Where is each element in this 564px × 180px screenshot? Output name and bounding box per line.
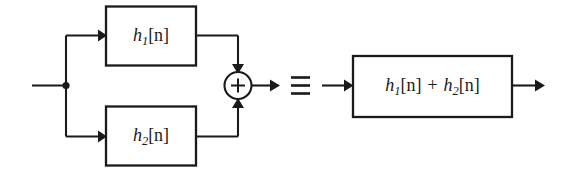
right-combined-system: h1[n]+h2[n]: [322, 56, 545, 117]
diagram-canvas: h1[n] h2[n]: [0, 0, 564, 180]
block-h1[interactable]: h1[n]: [106, 7, 196, 66]
left-parallel-system: h1[n] h2[n]: [32, 7, 280, 166]
block-h2-label-arg: [n]: [148, 125, 169, 145]
equivalence-symbol: [291, 78, 310, 94]
block-diagram-figure: h1[n] h2[n]: [0, 0, 564, 180]
combined-term2-arg: [n]: [459, 75, 480, 95]
left-system-output-arrowhead: [270, 80, 280, 92]
combined-block-output-arrowhead: [535, 80, 545, 92]
block-h1-label-h: h: [133, 25, 142, 45]
summing-junction[interactable]: [225, 72, 252, 99]
block-h2-label-h: h: [133, 125, 142, 145]
block-h1-label: h1[n]: [133, 25, 169, 48]
block-h2-label: h2[n]: [133, 125, 169, 148]
combined-term1-arg: [n]: [400, 75, 421, 95]
block-h1-label-arg: [n]: [148, 25, 169, 45]
combined-operator: +: [427, 75, 437, 95]
block-combined[interactable]: h1[n]+h2[n]: [353, 56, 512, 117]
combined-term1-h: h: [385, 75, 394, 95]
combined-term2-h: h: [444, 75, 453, 95]
block-h2[interactable]: h2[n]: [106, 107, 196, 166]
